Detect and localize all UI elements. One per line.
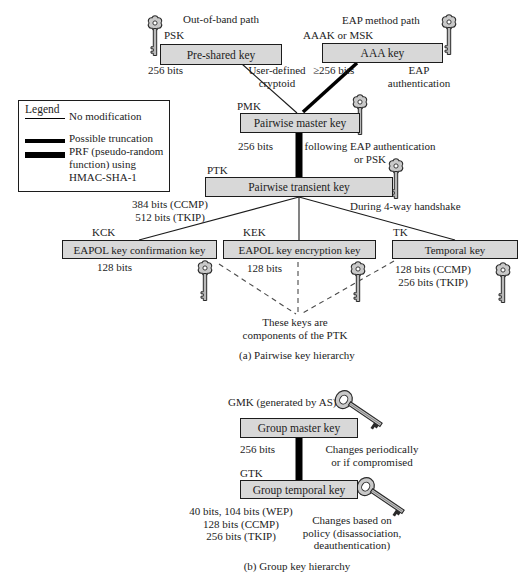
eap-method-path-label: EAP method path [342,14,420,27]
pre-shared-bits-label: 256 bits [148,64,183,77]
tk-bits-label: 128 bits (CCMP) 256 bits (TKIP) [395,263,471,288]
box-group-master-key: Group master key [240,418,358,438]
ptk-bits-label: 384 bits (CCMP) 512 bits (TKIP) [132,198,208,223]
legend-box: Legend No modification Possible truncati… [18,100,170,192]
box-temporal-key: Temporal key [392,240,518,259]
gmk-bits-label: 256 bits [240,443,275,456]
gmk-label: GMK (generated by AS) [228,396,336,409]
eap-authentication-note: EAP authentication [388,64,450,89]
kck-label: KCK [92,226,115,239]
kek-label: KEK [243,226,266,239]
box-eapol-key-confirmation-key: EAPOL key confirmation key [62,240,217,259]
box-eapol-key-encryption-key: EAPOL key encryption key [223,240,376,259]
gtk-bits-label: 40 bits, 104 bits (WEP) 128 bits (CCMP) … [189,505,293,543]
psk-label: PSK [164,29,184,42]
key-icon-kek [348,261,368,305]
legend-medium-line-sample [25,139,65,143]
pmk-bits-label: 256 bits [238,140,273,153]
box-pairwise-master-key: Pairwise master key [240,113,360,133]
pairwise-caption: (a) Pairwise key hierarchy [239,349,355,362]
kck-bits-label: 128 bits [97,261,132,274]
out-of-band-path-label: Out-of-band path [183,13,259,26]
user-defined-cryptoid-note: User-defined cryptoid [248,64,305,89]
key-icon-tk [493,262,513,306]
legend-item-prf: PRF (pseudo-random function) using HMAC-… [69,145,163,184]
legend-thick-line-sample [25,152,65,158]
changes-periodically-note: Changes periodically or if compromised [325,443,418,468]
components-note: These keys are components of the PTK [243,316,348,341]
legend-title: Legend [25,103,59,115]
following-eap-note: following EAP authentication or PSK [305,140,436,165]
aaak-msk-label: AAAK or MSK [303,29,373,42]
handshake-note: During 4-way handshake [350,200,461,213]
box-aaa-key: AAA key [322,43,443,63]
box-pre-shared-key: Pre-shared key [160,44,282,65]
group-caption: (b) Group key hierarchy [244,560,351,573]
legend-thin-line-sample [25,118,65,119]
changes-policy-note: Changes based on policy (disassociation,… [303,514,401,552]
gtk-label: GTK [240,467,263,480]
key-icon-kck [195,260,215,304]
kek-bits-label: 128 bits [247,262,282,275]
pmk-label: PMK [237,100,261,113]
box-group-temporal-key: Group temporal key [240,480,358,499]
tk-label: TK [393,226,408,239]
key-hierarchy-diagram: Legend No modification Possible truncati… [0,0,529,584]
box-pairwise-transient-key: Pairwise transient key [205,177,393,197]
legend-item-possible-truncation: Possible truncation [69,132,153,145]
ptk-label: PTK [207,164,228,177]
legend-item-no-modification: No modification [69,110,141,123]
aaa-bits-label: ≥256 bits [313,64,354,77]
